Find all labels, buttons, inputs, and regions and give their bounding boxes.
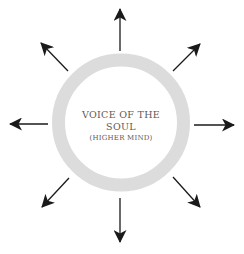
- arrow-down-left-icon: [42, 178, 69, 207]
- center-label: VOICE OF THE SOUL (HIGHER MIND): [71, 109, 171, 144]
- arrow-down-right-icon: [173, 177, 200, 207]
- center-subtitle: (HIGHER MIND): [71, 133, 171, 144]
- arrow-up-left-icon: [41, 43, 68, 71]
- center-title-line2: SOUL: [71, 121, 171, 133]
- center-title-line1: VOICE OF THE: [71, 109, 171, 121]
- arrow-up-right-icon: [173, 44, 200, 71]
